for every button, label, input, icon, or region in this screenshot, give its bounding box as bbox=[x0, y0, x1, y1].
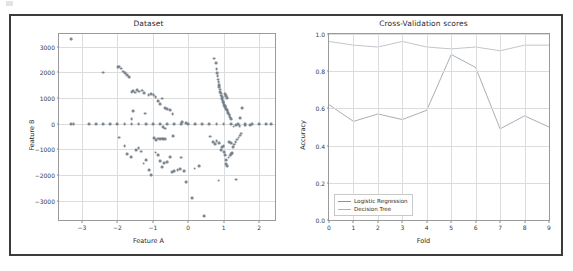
grid-line-vertical bbox=[500, 34, 501, 220]
y-tick-label: −2000 bbox=[35, 172, 55, 179]
scatter-point bbox=[239, 117, 242, 120]
scatter-point bbox=[215, 122, 218, 125]
scatter-point bbox=[126, 153, 129, 156]
scatter-point bbox=[95, 122, 98, 125]
x-tick-label: 8 bbox=[523, 224, 527, 231]
y-tick-mark bbox=[57, 123, 60, 124]
grid-line-vertical bbox=[117, 34, 118, 220]
chart-title-cv-scores: Cross-Validation scores bbox=[286, 19, 561, 28]
line-series bbox=[329, 41, 549, 50]
scatter-point bbox=[151, 122, 154, 125]
grid-line-vertical bbox=[82, 34, 83, 220]
scatter-point bbox=[180, 122, 183, 125]
x-tick-label: −1 bbox=[148, 224, 157, 231]
x-tick-mark bbox=[549, 220, 550, 223]
scatter-point bbox=[129, 156, 132, 159]
scatter-point bbox=[163, 138, 166, 141]
x-tick-label: 6 bbox=[474, 224, 478, 231]
scatter-point bbox=[185, 181, 188, 184]
scatter-point bbox=[88, 122, 91, 125]
stray-artifact-mark bbox=[6, 1, 13, 6]
x-tick-mark bbox=[475, 220, 476, 223]
grid-line-vertical bbox=[224, 34, 225, 220]
axis-label-accuracy: Accuracy bbox=[299, 120, 307, 150]
scatter-point bbox=[226, 97, 229, 100]
scatter-point bbox=[194, 122, 197, 125]
grid-line-vertical bbox=[188, 34, 189, 220]
x-tick-mark bbox=[524, 220, 525, 223]
axes-dataset: 3000200010000−1000−2000−3000−3−2−1012 bbox=[58, 33, 276, 221]
y-tick-mark bbox=[327, 34, 330, 35]
axis-label-fold: Fold bbox=[286, 237, 561, 245]
scatter-point bbox=[142, 162, 145, 165]
grid-line-horizontal bbox=[59, 72, 275, 73]
y-tick-label: 0 bbox=[51, 120, 55, 127]
figure-frame: Dataset 3000200010000−1000−2000−3000−3−2… bbox=[9, 14, 563, 256]
x-tick-mark bbox=[329, 220, 330, 223]
scatter-point bbox=[137, 147, 140, 150]
legend-item[interactable]: Logistic Regression bbox=[338, 197, 408, 205]
x-tick-label: 0 bbox=[327, 224, 331, 231]
y-tick-mark bbox=[327, 182, 330, 183]
y-tick-mark bbox=[57, 98, 60, 99]
x-tick-mark bbox=[188, 220, 189, 223]
legend-item[interactable]: Decision Tree bbox=[338, 205, 408, 213]
y-tick-label: 1.0 bbox=[315, 31, 325, 38]
x-tick-label: 1 bbox=[222, 224, 226, 231]
x-tick-mark bbox=[402, 220, 403, 223]
scatter-point bbox=[172, 135, 175, 138]
x-tick-label: 1 bbox=[352, 224, 356, 231]
x-tick-label: 4 bbox=[425, 224, 429, 231]
grid-line-horizontal bbox=[59, 149, 275, 150]
scatter-point bbox=[235, 178, 238, 181]
scatter-point bbox=[249, 124, 252, 127]
scatter-point bbox=[123, 122, 126, 125]
x-tick-label: 2 bbox=[257, 224, 261, 231]
x-tick-mark bbox=[82, 220, 83, 223]
cv-score-lines bbox=[329, 34, 549, 220]
x-tick-mark bbox=[500, 220, 501, 223]
y-tick-mark bbox=[57, 72, 60, 73]
scatter-point bbox=[224, 154, 227, 157]
y-tick-mark bbox=[327, 71, 330, 72]
scatter-point bbox=[226, 164, 229, 167]
y-tick-mark bbox=[327, 108, 330, 109]
y-tick-label: 0.2 bbox=[315, 179, 325, 186]
scatter-point bbox=[171, 113, 174, 116]
axes-cv-scores: Logistic RegressionDecision Tree 0.00.20… bbox=[328, 33, 550, 221]
scatter-point bbox=[258, 122, 261, 125]
x-tick-label: 3 bbox=[400, 224, 404, 231]
scatter-point bbox=[123, 144, 126, 147]
scatter-point bbox=[217, 179, 220, 182]
scatter-point bbox=[235, 124, 238, 127]
x-tick-mark bbox=[259, 220, 260, 223]
scatter-point bbox=[130, 118, 133, 121]
grid-line-vertical bbox=[378, 34, 379, 220]
grid-line-vertical bbox=[259, 34, 260, 220]
scatter-point bbox=[183, 169, 186, 172]
scatter-point bbox=[102, 71, 105, 74]
scatter-point bbox=[173, 122, 176, 125]
panel-dataset-scatter: Dataset 3000200010000−1000−2000−3000−3−2… bbox=[11, 16, 286, 254]
grid-line-vertical bbox=[153, 34, 154, 220]
y-tick-mark bbox=[57, 46, 60, 47]
panel-cv-scores: Cross-Validation scores Logistic Regress… bbox=[286, 16, 561, 254]
x-tick-label: −3 bbox=[78, 224, 87, 231]
y-tick-label: 3000 bbox=[40, 43, 55, 50]
scatter-point bbox=[166, 122, 169, 125]
y-tick-mark bbox=[57, 149, 60, 150]
y-tick-label: −1000 bbox=[35, 146, 55, 153]
scatter-point bbox=[180, 156, 183, 159]
scatter-point bbox=[197, 165, 200, 168]
chart-title-dataset: Dataset bbox=[11, 19, 286, 28]
scatter-point bbox=[173, 169, 176, 172]
scatter-point bbox=[193, 167, 196, 170]
scatter-point bbox=[144, 112, 147, 115]
scatter-point bbox=[139, 150, 142, 153]
x-tick-label: 5 bbox=[449, 224, 453, 231]
grid-line-horizontal bbox=[329, 34, 549, 35]
scatter-point bbox=[72, 122, 75, 125]
scatter-point bbox=[223, 150, 226, 153]
y-tick-label: 0.4 bbox=[315, 142, 325, 149]
y-tick-label: 0.6 bbox=[315, 105, 325, 112]
